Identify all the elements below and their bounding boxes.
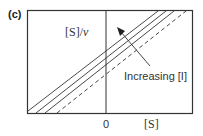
- y-axis-label: [S]/v: [65, 25, 89, 39]
- x-axis-label: [S]: [144, 117, 159, 131]
- line-inhibitor-3: [28, 11, 158, 111]
- increasing-arrow: [117, 27, 150, 66]
- annotation-increasing-inhibitor: Increasing [I]: [124, 70, 187, 82]
- origin-tick-label: 0: [103, 118, 109, 130]
- plot-lines: [28, 11, 186, 113]
- diagram-canvas: (c) [S]/v Increasing [I] 0 [S]: [0, 0, 203, 136]
- panel-label: (c): [8, 8, 22, 20]
